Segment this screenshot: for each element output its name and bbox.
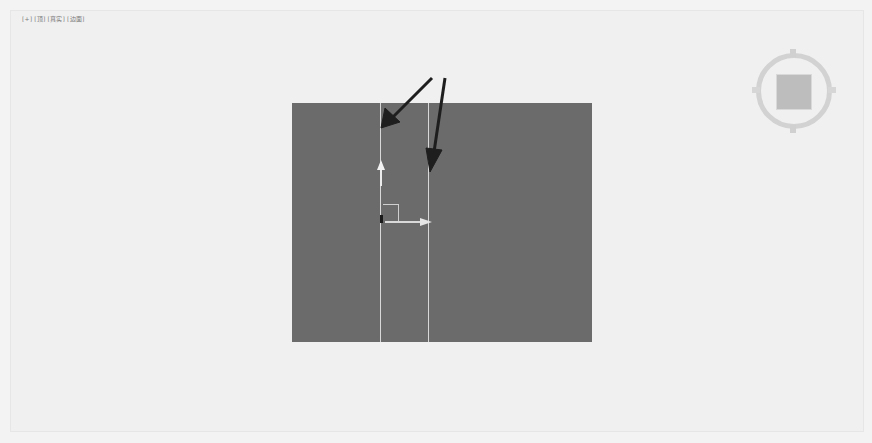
3d-viewport[interactable]: [+][顶][真实][边面] <box>0 0 872 443</box>
viewport-shading-label[interactable]: [真实] <box>48 15 65 22</box>
viewport-view-label[interactable]: [顶] <box>34 15 45 22</box>
plane-object[interactable] <box>292 103 592 342</box>
gizmo-x-axis[interactable] <box>385 221 425 223</box>
compass-west-icon[interactable] <box>752 87 760 93</box>
gizmo-y-arrow-icon[interactable] <box>377 160 385 170</box>
viewcube[interactable] <box>752 49 836 133</box>
viewport-label: [+][顶][真实][边面] <box>22 14 87 23</box>
gizmo-plane-handle[interactable] <box>383 204 399 222</box>
compass-north-icon[interactable] <box>790 49 796 57</box>
compass-south-icon[interactable] <box>790 125 796 133</box>
viewcube-top-face[interactable] <box>776 74 812 110</box>
viewport-menu-plus[interactable]: [+] <box>22 15 32 22</box>
viewport-edges-label[interactable]: [边面] <box>67 15 84 22</box>
gizmo-pivot <box>380 215 383 223</box>
compass-east-icon[interactable] <box>828 87 836 93</box>
gizmo-x-arrow-icon[interactable] <box>420 218 432 226</box>
